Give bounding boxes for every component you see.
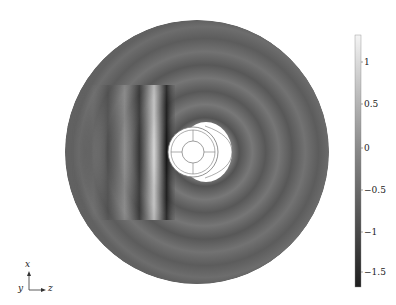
colorbar-tick-0: 0 (364, 143, 370, 153)
colorbar-tick-1: 1 (364, 57, 370, 67)
axis-label-y: y (18, 283, 23, 293)
field-plot (0, 0, 396, 305)
axis-triad (27, 271, 46, 292)
colorbar-tick-neg0.5: −0.5 (364, 185, 386, 195)
axis-label-z: z (48, 283, 53, 293)
colorbar (355, 35, 363, 287)
axis-label-x: x (25, 259, 30, 269)
colorbar-tick-neg1: −1 (364, 227, 377, 237)
colorbar-tick-neg1.5: −1.5 (364, 267, 386, 277)
colorbar-tick-0.5: 0.5 (364, 99, 378, 109)
